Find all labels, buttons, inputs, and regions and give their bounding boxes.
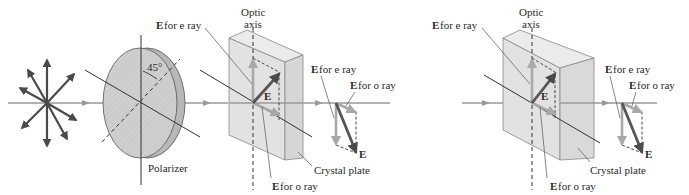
e-for-o-ray-label-bold: E <box>550 180 557 192</box>
crystal-plate-label: Crystal plate <box>590 164 646 176</box>
e-for-e-ray-label-bold: E <box>432 19 439 31</box>
birefringence-diagram: 45° Polarizer E Optic axis E for e ray <box>0 0 689 195</box>
e-for-e-ray-label: for e ray <box>440 19 478 31</box>
out-e-for-e-ray-label-bold: E <box>605 63 612 75</box>
right-panel: E Optic axis E for e ray E for o ray Cry… <box>432 6 675 192</box>
e-vector-label: E <box>541 90 548 102</box>
out-e-for-e-ray-label: for e ray <box>319 63 357 75</box>
optic-axis-label: Optic <box>241 6 266 18</box>
angle-label: 45° <box>147 61 162 73</box>
polarizer <box>103 48 185 158</box>
e-for-e-ray-label-bold: E <box>156 19 163 31</box>
out-e-for-o-ray-label: for o ray <box>358 79 396 91</box>
e-vector-label: E <box>264 90 271 102</box>
optic-axis-label: Optic <box>519 6 544 18</box>
crystal-plate-label: Crystal plate <box>314 164 370 176</box>
beam-arrow-icon <box>482 100 490 106</box>
leader-line <box>346 92 355 106</box>
leader-line <box>321 76 334 118</box>
beam-arrow-icon <box>82 100 90 106</box>
e-for-o-ray-label: for o ray <box>280 180 318 192</box>
beam-arrow-icon <box>315 100 323 106</box>
out-e-for-o-ray-label: for o ray <box>637 79 675 91</box>
out-e-label: E <box>359 148 366 160</box>
beam-arrow-icon <box>203 100 211 106</box>
beam-arrow-icon <box>602 100 610 106</box>
e-for-o-ray-label-bold: E <box>272 180 279 192</box>
out-e-for-e-ray-label: for e ray <box>613 63 651 75</box>
leader-line <box>610 76 620 118</box>
e-for-e-ray-label: for e ray <box>164 19 202 31</box>
e-for-o-ray-label: for o ray <box>558 180 596 192</box>
out-e-label: E <box>645 148 652 160</box>
optic-axis-label: axis <box>522 18 540 30</box>
leader-line <box>632 92 636 106</box>
crystal-plate <box>503 30 594 160</box>
diagram-canvas: 45° Polarizer E Optic axis E for e ray <box>0 0 689 195</box>
out-e-for-e-ray-label-bold: E <box>311 63 318 75</box>
left-panel: 45° Polarizer E Optic axis E for e ray <box>8 6 396 192</box>
out-e-for-o-ray-label-bold: E <box>350 79 357 91</box>
leader-line <box>298 152 312 166</box>
polarizer-label: Polarizer <box>148 162 188 174</box>
out-e-for-o-ray-label-bold: E <box>629 79 636 91</box>
optic-axis-label: axis <box>244 18 262 30</box>
